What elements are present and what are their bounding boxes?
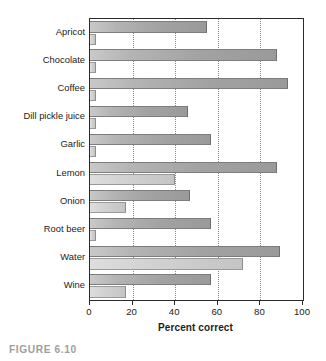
y-axis-label-wine: Wine	[1, 280, 85, 290]
bar-group	[90, 160, 303, 188]
plot-area	[89, 18, 304, 301]
bar	[90, 49, 277, 60]
bar-group	[90, 216, 303, 244]
bar-group	[90, 47, 303, 75]
tick-label-80: 80	[254, 306, 265, 317]
bar	[90, 258, 243, 269]
y-axis-label-water: Water	[1, 252, 85, 262]
plot-inner	[90, 19, 303, 300]
bar	[90, 202, 126, 213]
tick-label-60: 60	[211, 306, 222, 317]
y-axis-labels: ApricotChocolateCoffeeDill pickle juiceG…	[0, 18, 85, 299]
tick-mark-100	[302, 300, 303, 305]
bar	[90, 78, 288, 89]
x-axis-tick-labels: 020406080100	[89, 306, 302, 320]
bar	[90, 274, 211, 285]
figure-container: ApricotChocolateCoffeeDill pickle juiceG…	[0, 0, 326, 361]
bar	[90, 134, 211, 145]
x-axis-title: Percent correct	[89, 322, 302, 333]
y-axis-label-dill-pickle-juice: Dill pickle juice	[1, 111, 85, 121]
bar	[90, 174, 175, 185]
bar	[90, 34, 96, 45]
figure-caption: FIGURE 6.10	[9, 344, 77, 355]
y-axis-label-chocolate: Chocolate	[1, 55, 85, 65]
y-axis-label-apricot: Apricot	[1, 27, 85, 37]
y-axis-label-onion: Onion	[1, 196, 85, 206]
tick-label-100: 100	[294, 306, 310, 317]
bar	[90, 21, 207, 32]
bar	[90, 218, 211, 229]
bar-group	[90, 244, 303, 272]
bar	[90, 246, 280, 257]
tick-mark-0	[89, 300, 90, 305]
y-axis-label-garlic: Garlic	[1, 139, 85, 149]
tick-mark-60	[217, 300, 218, 305]
tick-mark-40	[174, 300, 175, 305]
bar	[90, 162, 277, 173]
bar	[90, 286, 126, 297]
bar-group	[90, 131, 303, 159]
bar	[90, 118, 96, 129]
y-axis-label-root-beer: Root beer	[1, 224, 85, 234]
bar	[90, 90, 96, 101]
bar-group	[90, 188, 303, 216]
bar	[90, 106, 188, 117]
y-axis-label-coffee: Coffee	[1, 83, 85, 93]
tick-mark-20	[132, 300, 133, 305]
bar	[90, 146, 96, 157]
bar-group	[90, 75, 303, 103]
bar-group	[90, 272, 303, 300]
tick-mark-80	[259, 300, 260, 305]
bar-group	[90, 19, 303, 47]
tick-label-40: 40	[169, 306, 180, 317]
bar	[90, 230, 96, 241]
tick-label-20: 20	[126, 306, 137, 317]
y-axis-label-lemon: Lemon	[1, 168, 85, 178]
bar	[90, 190, 190, 201]
bar-group	[90, 103, 303, 131]
tick-label-0: 0	[86, 306, 91, 317]
bar	[90, 62, 96, 73]
